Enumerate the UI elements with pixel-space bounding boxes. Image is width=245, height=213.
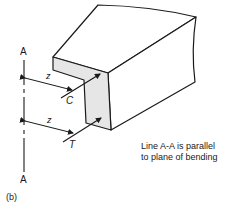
note-line-1: Line A-A is parallel <box>141 141 218 152</box>
tension-label: T <box>69 140 75 150</box>
axis-label-top: A <box>20 47 27 57</box>
axis-label-bottom: A <box>20 175 27 185</box>
angle-beam <box>53 5 196 130</box>
note-line-2: to plane of bending <box>141 152 218 163</box>
plane-of-bending-note: Line A-A is parallel to plane of bending <box>141 141 218 163</box>
figure-label: (b) <box>6 193 17 202</box>
compression-label: C <box>66 96 73 106</box>
dimension-label-z-t: z <box>47 116 52 125</box>
beam-diagram <box>0 0 245 213</box>
dimension-label-z-c: z <box>46 72 51 81</box>
